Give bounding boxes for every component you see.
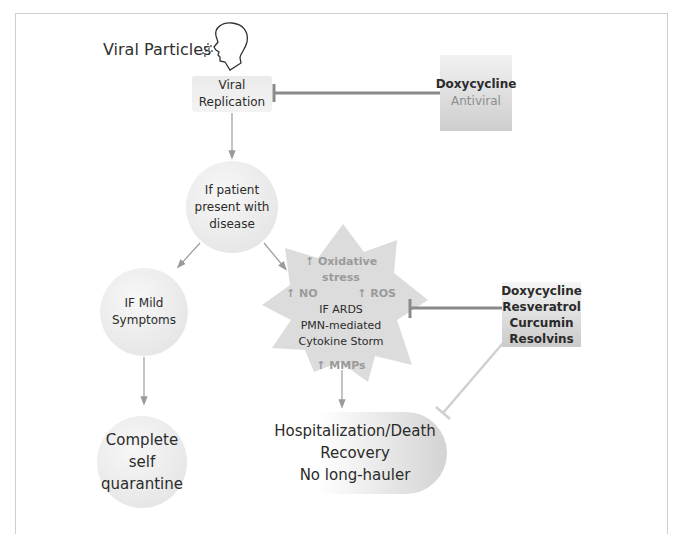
viral-particles-label: Viral Particles [103, 40, 211, 59]
ards-line-2: PMN-mediated [286, 318, 396, 334]
patient-line-2: present with [195, 199, 270, 216]
quarantine-line-3: quarantine [101, 473, 183, 495]
patient-line-3: disease [209, 216, 255, 233]
drug-doxycycline: Doxycycline [501, 283, 582, 299]
mild-line-2: Symptoms [112, 312, 176, 329]
outcome-line-1: Hospitalization/Death [263, 420, 447, 442]
viral-replication-node: Viral Replication [192, 76, 272, 112]
drug-resveratrol: Resveratrol [502, 299, 581, 315]
arrow-patient-to-mild [180, 243, 200, 265]
arrow-patient-to-ards [264, 243, 284, 267]
viral-replication-line-2: Replication [199, 94, 265, 111]
drug-resolvins: Resolvins [509, 331, 574, 347]
quarantine-line-1: Complete [106, 429, 178, 451]
outcome-line-3: No long-hauler [263, 464, 447, 486]
ards-node-text: ↑ Oxidative stress ↑ NO ↑ ROS IF ARDS PM… [286, 254, 396, 374]
mild-symptoms-node: IF Mild Symptoms [100, 268, 188, 356]
drug-curcumin: Curcumin [509, 315, 573, 331]
mmps-marker: ↑ MMPs [286, 358, 396, 374]
patient-disease-node: If patient present with disease [186, 161, 278, 253]
quarantine-line-2: self [129, 451, 156, 473]
outcome-node: Hospitalization/Death Recovery No long-h… [263, 412, 447, 494]
patient-line-1: If patient [205, 182, 259, 199]
ards-line-3: Cytokine Storm [286, 334, 396, 350]
self-quarantine-node: Complete self quarantine [97, 416, 187, 508]
antiviral-label: Antiviral [451, 93, 501, 110]
ros-marker: ↑ ROS [357, 286, 396, 302]
viral-replication-line-1: Viral [219, 77, 246, 94]
person-exhaling-icon [214, 23, 247, 70]
doxycycline-antiviral-box: Doxycycline Antiviral [440, 55, 512, 131]
doxycycline-label: Doxycycline [436, 76, 517, 93]
mild-line-1: IF Mild [125, 295, 164, 312]
inhibitor-outcome-line [443, 343, 503, 413]
no-marker: ↑ NO [286, 286, 318, 302]
anti-inflammatory-drugs-box: Doxycycline Resveratrol Curcumin Resolvi… [502, 282, 581, 347]
ards-line-1: IF ARDS [286, 302, 396, 318]
outcome-line-2: Recovery [263, 442, 447, 464]
oxidative-stress-marker: ↑ Oxidative stress [286, 254, 396, 286]
